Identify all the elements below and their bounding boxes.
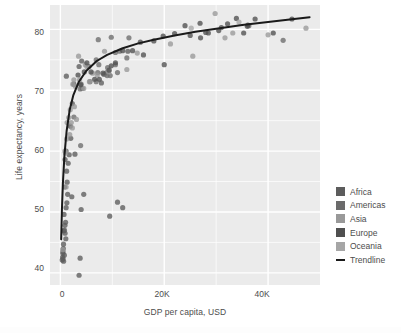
data-point [162, 62, 167, 67]
data-point [63, 184, 68, 189]
trendline-path [61, 17, 309, 239]
legend-swatch-icon [336, 214, 345, 223]
data-point [70, 82, 75, 87]
legend-swatch-icon [336, 201, 345, 210]
data-point [81, 192, 86, 197]
legend-swatch-icon [336, 242, 345, 251]
data-point [88, 69, 93, 74]
legend-line-key-icon [336, 255, 345, 264]
data-point [75, 72, 80, 77]
data-point [189, 26, 194, 31]
data-point [60, 256, 65, 261]
legend-item-label: Asia [350, 214, 367, 224]
data-point [60, 247, 65, 252]
data-point [63, 236, 68, 241]
data-point [67, 132, 72, 137]
y-tick-label-60: 60 [18, 145, 44, 155]
data-point [125, 49, 130, 54]
x-axis-title: GDP per capita, USD [50, 307, 320, 317]
data-point [222, 35, 227, 40]
data-point [96, 37, 101, 42]
x-tick-label-20k: 20K [142, 289, 182, 299]
plot-panel [50, 5, 320, 285]
data-point [124, 67, 129, 72]
data-point [92, 77, 97, 82]
data-point [241, 30, 246, 35]
data-point [107, 68, 112, 73]
data-point [265, 32, 270, 37]
data-point [281, 38, 286, 43]
data-point [107, 214, 112, 219]
scatter-chart: Life expectancy, years GDP per capita, U… [0, 0, 401, 333]
bottom-edge-artifact [0, 327, 401, 333]
data-point [225, 21, 230, 26]
data-point [63, 205, 68, 210]
data-point [135, 50, 140, 55]
data-point [100, 71, 105, 76]
data-point [236, 19, 241, 24]
data-point [130, 48, 135, 53]
data-point [64, 74, 69, 79]
gridlines [50, 5, 320, 285]
data-point [76, 64, 81, 69]
data-point [87, 79, 92, 84]
data-point [120, 205, 125, 210]
x-tick-label-0: 0 [42, 289, 82, 299]
legend-item-trendline[interactable]: Trendline [336, 253, 400, 267]
x-tick-label-40k: 40K [242, 289, 282, 299]
legend-swatch-icon [336, 187, 345, 196]
data-point [84, 60, 89, 65]
data-point [141, 52, 146, 57]
data-point [62, 223, 67, 228]
y-tick-label-70: 70 [18, 86, 44, 96]
data-point [78, 256, 83, 261]
data-point [190, 54, 195, 59]
legend-item-europe[interactable]: Europe [336, 226, 400, 240]
data-point [72, 152, 77, 157]
legend-item-label: Oceania [350, 241, 382, 251]
y-axis-title: Life expectancy, years [14, 82, 24, 192]
data-point [168, 41, 173, 46]
data-point [115, 70, 120, 75]
data-point [126, 35, 131, 40]
data-point [70, 125, 75, 130]
legend-item-americas[interactable]: Americas [336, 199, 400, 213]
data-point [78, 143, 83, 148]
data-point [109, 35, 114, 40]
y-tick-label-40: 40 [18, 263, 44, 273]
data-point [64, 169, 69, 174]
data-points-layer [60, 11, 309, 278]
data-point [102, 49, 107, 54]
data-point [96, 62, 101, 67]
data-point [230, 30, 235, 35]
legend-item-label: Trendline [350, 255, 385, 265]
legend-item-label: Europe [350, 228, 377, 238]
data-point [198, 35, 203, 40]
data-point [197, 21, 202, 26]
data-point [97, 77, 102, 82]
legend-item-asia[interactable]: Asia [336, 212, 400, 226]
data-point [62, 228, 67, 233]
plot-svg [50, 5, 320, 285]
legend: AfricaAmericasAsiaEuropeOceaniaTrendline [336, 185, 400, 267]
data-point [252, 16, 257, 21]
data-point [113, 60, 118, 65]
legend-swatch-icon [336, 228, 345, 237]
data-point [76, 54, 81, 59]
y-tick-label-80: 80 [18, 27, 44, 37]
data-point [115, 200, 120, 205]
data-point [213, 11, 218, 16]
data-point [69, 194, 74, 199]
data-point [124, 55, 129, 60]
legend-item-label: Africa [350, 187, 372, 197]
legend-item-africa[interactable]: Africa [336, 185, 400, 199]
data-point [64, 200, 69, 205]
legend-item-label: Americas [350, 200, 385, 210]
legend-item-oceania[interactable]: Oceania [336, 239, 400, 253]
y-tick-label-50: 50 [18, 204, 44, 214]
data-point [72, 104, 77, 109]
data-point [303, 26, 308, 31]
data-point [65, 180, 70, 185]
data-point [271, 30, 276, 35]
data-point [74, 117, 79, 122]
